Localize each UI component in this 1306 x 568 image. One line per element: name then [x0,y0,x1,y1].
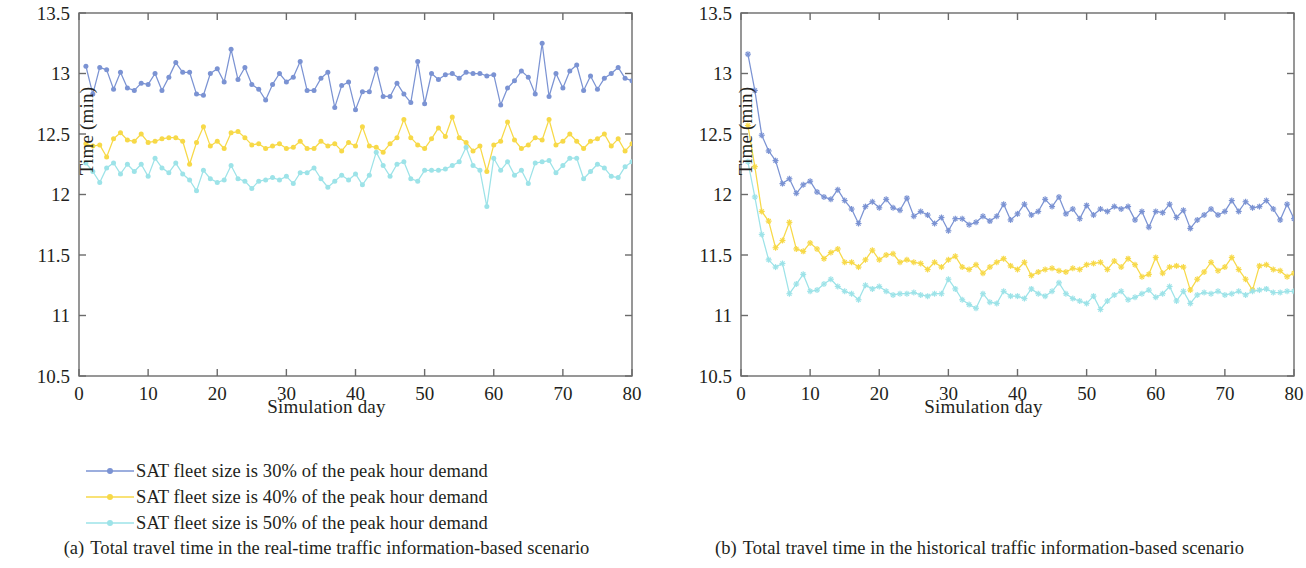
panel-b-caption: (b)Total travel time in the historical t… [653,538,1306,559]
series-point-marker [616,175,621,180]
series-point-marker [911,213,917,219]
series-line [748,162,1294,310]
series-point-marker [498,168,503,173]
series-point-marker [595,136,600,141]
legend-item[interactable]: SAT fleet size is 30% of the peak hour d… [84,459,488,483]
series-point-marker [381,94,386,99]
series-point-marker [1153,294,1159,300]
series-point-marker [945,276,951,282]
series-point-marker [132,88,137,93]
series-point-marker [766,257,772,263]
series-point-marker [1056,280,1062,286]
series-point-marker [630,159,635,164]
series-point-marker [1008,293,1014,299]
series-point-marker [194,140,199,145]
series-point-marker [1063,291,1069,297]
series-point-marker [759,231,765,237]
series-point-marker [779,260,785,266]
series-point-marker [229,47,234,52]
series-point-marker [574,139,579,144]
series-point-marker [1173,263,1179,269]
y-axis-tick-label: 12 [51,184,70,205]
series-point-marker [856,297,862,303]
series-point-marker [862,257,868,263]
series-point-marker [945,257,951,263]
legend-item[interactable]: SAT fleet size is 50% of the peak hour d… [84,511,488,535]
series-point-marker [959,264,965,270]
series-point-marker [945,228,951,234]
series-point-marker [1015,267,1021,273]
series-point-marker [1118,264,1124,270]
legend-item[interactable]: SAT fleet size is 40% of the peak hour d… [84,485,488,509]
series-point-marker [477,71,482,76]
series-point-marker [291,145,296,150]
series-point-marker [429,71,434,76]
series-point-marker [318,176,323,181]
series-point-marker [235,176,240,181]
series-point-marker [312,88,317,93]
series-point-marker [807,178,813,184]
series-point-marker [277,71,282,76]
series-point-marker [904,257,910,263]
series-point-marker [779,181,785,187]
series-point-marker [1243,292,1249,298]
series-point-marker [360,124,365,129]
series-point-marker [533,92,538,97]
series-point-marker [994,213,1000,219]
series-point-marker [270,144,275,149]
figure-two-panel-chart: 10.51111.51212.51313.501020304050607080 … [0,0,1306,568]
series-line [86,147,632,206]
series-point-marker [401,117,406,122]
series-point-marker [291,181,296,186]
series-point-marker [1160,270,1166,276]
series-point-marker [491,72,496,77]
series-point-marker [353,144,358,149]
series-point-marker [471,163,476,168]
series-point-marker [173,161,178,166]
series-point-marker [588,139,593,144]
series-point-marker [1284,288,1290,294]
series-point-marker [1270,206,1276,212]
y-axis-tick-label: 10.5 [37,366,70,387]
series-point-marker [249,186,254,191]
series-point-marker [925,293,931,299]
series-point-marker [208,71,213,76]
series-point-marker [1167,283,1173,289]
series-point-marker [938,264,944,270]
series-point-marker [450,71,455,76]
series-point-marker [890,251,896,257]
series-point-marker [505,159,510,164]
series-point-marker [519,146,524,151]
series-point-marker [786,176,792,182]
series-point-marker [1291,216,1297,222]
series-point-marker [581,146,586,151]
series-point-marker [862,282,868,288]
series-point-marker [766,218,772,224]
series-point-marker [842,288,848,294]
series-point-marker [876,205,882,211]
series-point-marker [560,86,565,91]
series-point-marker [994,259,1000,265]
series-point-marker [1077,298,1083,304]
series-point-marker [457,76,462,81]
series-point-marker [318,139,323,144]
series-point-marker [125,162,130,167]
y-axis-tick-label: 11 [52,305,70,326]
series-point-marker [332,141,337,146]
series-point-marker [180,139,185,144]
series-point-marker [609,174,614,179]
series-point-marker [256,141,261,146]
legend-item-label: SAT fleet size is 30% of the peak hour d… [136,459,488,483]
series-point-marker [1084,202,1090,208]
series-point-marker [422,146,427,151]
series-point-marker [1056,194,1062,200]
series-point-marker [367,89,372,94]
series-point-marker [1132,294,1138,300]
series-point-marker [388,174,393,179]
series-point-marker [346,177,351,182]
series-point-marker [828,196,834,202]
series-point-marker [849,206,855,212]
series-point-marker [1118,206,1124,212]
series-point-marker [284,146,289,151]
series-point-marker [125,86,130,91]
